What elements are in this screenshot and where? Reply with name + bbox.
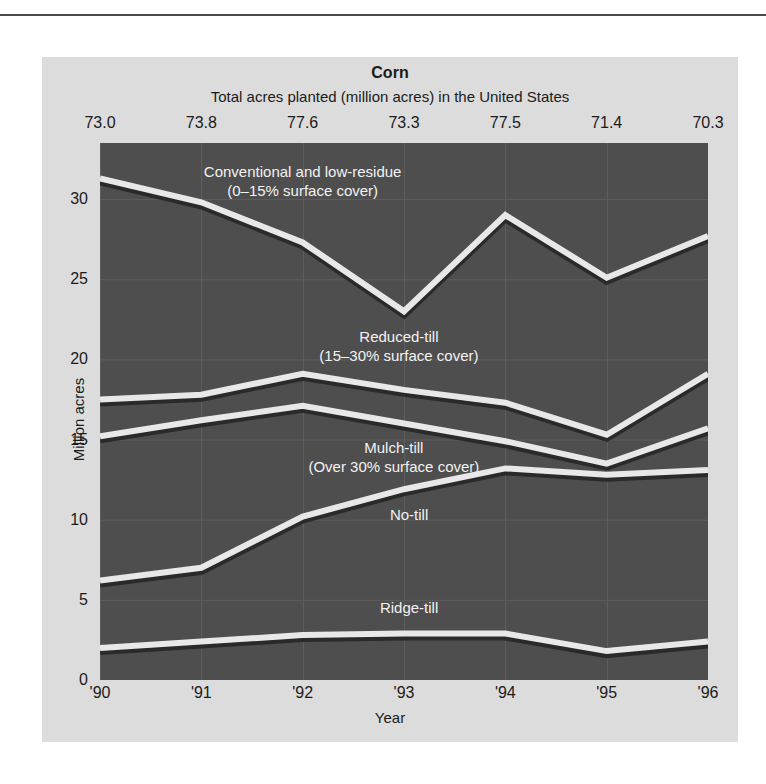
x-axis-tick-labels: '90'91'92'93'94'95'96: [42, 684, 738, 706]
x-tick-label: '93: [394, 684, 415, 702]
gridlines: [100, 143, 708, 680]
x-tick-label: '90: [90, 684, 111, 702]
x-tick-label: '95: [596, 684, 617, 702]
top-acres-value: 73.0: [84, 114, 115, 132]
top-divider-rule: [0, 14, 766, 16]
top-acres-value: 73.8: [186, 114, 217, 132]
chart-panel: Corn Total acres planted (million acres)…: [42, 57, 738, 742]
figure-root: Corn Total acres planted (million acres)…: [0, 0, 766, 784]
x-tick-label: '91: [191, 684, 212, 702]
plot-area: Conventional and low-residue (0–15% surf…: [100, 143, 708, 680]
chart-subtitle: Total acres planted (million acres) in t…: [42, 88, 738, 105]
chart-title: Corn: [42, 64, 738, 82]
chart-svg: [100, 143, 708, 680]
top-acres-row: 73.073.877.673.377.571.470.3: [42, 114, 738, 136]
y-tick-label: 25: [70, 270, 88, 288]
y-axis-title: Million acres: [70, 340, 87, 500]
top-acres-value: 77.6: [287, 114, 318, 132]
x-tick-label: '96: [698, 684, 719, 702]
x-tick-label: '94: [495, 684, 516, 702]
y-tick-label: 30: [70, 190, 88, 208]
top-acres-value: 70.3: [692, 114, 723, 132]
x-tick-label: '92: [292, 684, 313, 702]
top-acres-value: 71.4: [591, 114, 622, 132]
y-tick-label: 5: [79, 591, 88, 609]
top-acres-value: 77.5: [490, 114, 521, 132]
top-acres-value: 73.3: [388, 114, 419, 132]
x-axis-title: Year: [42, 709, 738, 726]
y-tick-label: 10: [70, 511, 88, 529]
